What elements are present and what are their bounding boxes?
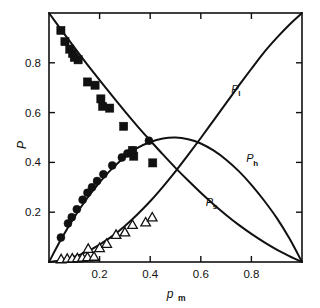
x-axis-title: p m xyxy=(166,287,186,303)
marker-filled-square xyxy=(106,104,114,112)
x-tick-label: 0.2 xyxy=(92,268,108,280)
curve-labels: PlPhPs xyxy=(206,83,258,211)
marker-open-triangle xyxy=(147,212,157,220)
marker-filled-square xyxy=(91,81,99,89)
curve-label-subscript: h xyxy=(253,159,258,168)
marker-filled-square xyxy=(61,38,69,46)
curve-label-s: Ps xyxy=(206,196,218,211)
curve-label-h: Ph xyxy=(246,152,258,167)
marker-filled-square xyxy=(57,26,65,34)
marker-filled-circle xyxy=(145,137,153,145)
y-axis-tick-labels: 0.20.40.60.8 xyxy=(25,57,42,218)
marker-filled-circle xyxy=(68,213,76,221)
marker-filled-square xyxy=(74,56,82,64)
scatter-plot: 0.20.40.60.8 0.20.40.60.8 PlPhPs P p m xyxy=(0,0,320,308)
y-tick-label: 0.6 xyxy=(25,107,41,119)
marker-filled-square xyxy=(97,95,105,103)
marker-filled-square xyxy=(83,78,91,86)
marker-filled-circle xyxy=(73,205,81,213)
marker-filled-circle xyxy=(93,177,101,185)
marker-filled-circle xyxy=(79,196,87,204)
x-tick-label: 0.8 xyxy=(243,268,259,280)
x-axis-title-subscript: m xyxy=(178,293,186,303)
curve-p-h xyxy=(49,137,302,262)
x-axis-tick-labels: 0.20.40.60.8 xyxy=(92,268,260,280)
chart-figure: 0.20.40.60.8 0.20.40.60.8 PlPhPs P p m xyxy=(0,0,320,308)
curve-label-subscript: s xyxy=(213,202,218,211)
y-axis-title: P xyxy=(15,141,29,149)
y-axis-title-text: P xyxy=(15,141,29,149)
marker-filled-circle xyxy=(108,161,116,169)
x-tick-label: 0.4 xyxy=(142,268,159,280)
y-tick-label: 0.4 xyxy=(25,156,42,168)
x-axis-title-text: p xyxy=(166,287,174,301)
marker-filled-circle xyxy=(57,234,65,242)
marker-filled-circle xyxy=(99,170,107,178)
marker-filled-circle xyxy=(128,146,136,154)
marker-filled-square xyxy=(149,159,157,167)
y-tick-label: 0.8 xyxy=(25,57,41,69)
y-tick-label: 0.2 xyxy=(25,206,41,218)
marker-open-triangle xyxy=(89,252,99,260)
x-tick-label: 0.6 xyxy=(193,268,209,280)
curve-label-subscript: l xyxy=(238,89,240,98)
marker-filled-square xyxy=(120,122,128,130)
data-curves xyxy=(49,13,302,262)
